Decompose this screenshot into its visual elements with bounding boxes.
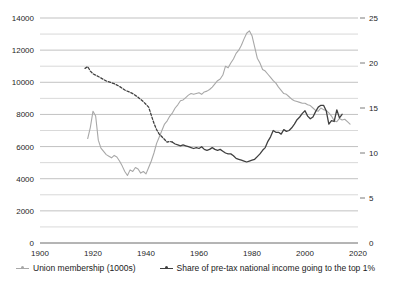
legend-item-union-membership: Union membership (1000s) <box>16 263 136 273</box>
data-series-layer <box>85 31 350 176</box>
y-axis-left-tick-label: 4000 <box>16 175 34 184</box>
series-line-union-membership <box>88 31 350 176</box>
legend-label-top1-share: Share of pre-tax national income going t… <box>177 263 375 273</box>
x-axis-tick-label: 1960 <box>190 249 208 258</box>
y-axis-right-tick-label: 15 <box>369 104 378 113</box>
gridlines <box>40 18 358 227</box>
y-axis-right-tick-label: 25 <box>369 14 378 23</box>
y-axis-left-tick-label: 0 <box>30 239 35 248</box>
y-axis-left-tick-label: 10000 <box>12 78 35 87</box>
y-axis-left-tick-label: 6000 <box>16 143 34 152</box>
x-axis-tick-label: 2020 <box>349 249 367 258</box>
chart-plot-area: 0200040006000800010000120001400005101520… <box>0 0 394 287</box>
y-axis-right-tick-label: 10 <box>369 149 378 158</box>
series-line-top1-share-estimated <box>85 67 172 143</box>
legend-marker-line-icon <box>16 264 29 272</box>
x-axis-tick-label: 1900 <box>31 249 49 258</box>
x-axis-tick-label: 1940 <box>137 249 155 258</box>
chart-container: 0200040006000800010000120001400005101520… <box>0 0 394 287</box>
x-axis-tick-label: 1920 <box>84 249 102 258</box>
axis-tick-marks <box>360 18 365 198</box>
y-axis-left-tick-label: 8000 <box>16 110 34 119</box>
legend-marker-line-icon <box>160 264 173 272</box>
y-axis-right-tick-label: 20 <box>369 59 378 68</box>
legend-item-top1-share: Share of pre-tax national income going t… <box>160 263 375 273</box>
x-axis-tick-label: 1980 <box>243 249 261 258</box>
y-axis-left-tick-label: 12000 <box>12 46 35 55</box>
x-axis-tick-label: 2000 <box>296 249 314 258</box>
y-axis-left-tick-label: 2000 <box>16 207 34 216</box>
series-line-top1-share <box>173 105 343 162</box>
chart-legend: Union membership (1000s) Share of pre-ta… <box>0 259 394 277</box>
y-axis-left-tick-label: 14000 <box>12 14 35 23</box>
axis-tick-labels: 0200040006000800010000120001400005101520… <box>12 14 379 258</box>
y-axis-right-tick-label: 0 <box>369 239 374 248</box>
legend-label-union-membership: Union membership (1000s) <box>33 263 136 273</box>
y-axis-right-tick-label: 5 <box>369 194 374 203</box>
